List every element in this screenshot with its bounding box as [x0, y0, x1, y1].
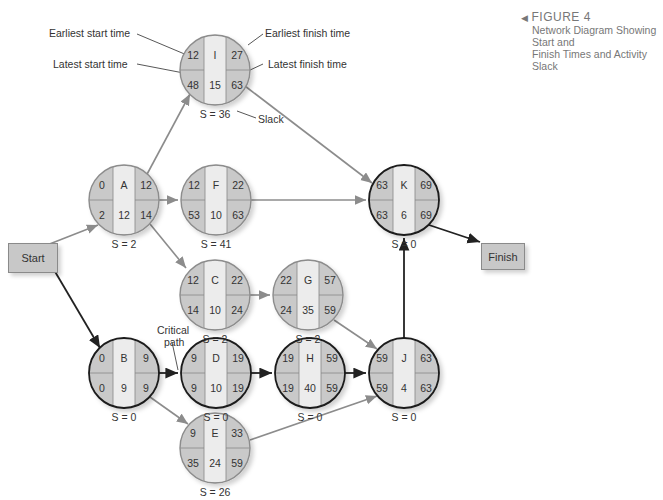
label-slack: Slack	[258, 113, 284, 125]
node-d-earliest-finish: 19	[232, 352, 244, 364]
edge-start-a	[47, 225, 98, 245]
node-f-slack: S = 41	[201, 238, 232, 250]
node-d	[181, 338, 251, 408]
node-j-latest-finish: 63	[420, 382, 432, 394]
node-i-latest-finish: 63	[231, 79, 243, 91]
node-i-latest-start: 48	[187, 79, 199, 91]
node-j-earliest-finish: 63	[420, 352, 432, 364]
node-c	[180, 260, 250, 330]
node-b-earliest-finish: 9	[143, 352, 149, 364]
label-path: path	[164, 336, 184, 348]
node-c-duration: 10	[209, 304, 221, 316]
leader-slack	[237, 111, 256, 118]
node-f-activity-name: F	[213, 179, 219, 191]
node-c-earliest-start: 12	[187, 274, 199, 286]
node-j-slack: S = 0	[392, 411, 417, 423]
node-k	[369, 165, 439, 235]
node-d-latest-finish: 19	[232, 382, 244, 394]
node-h-latest-start: 19	[282, 382, 294, 394]
node-e-earliest-start: 9	[190, 427, 196, 439]
node-c-earliest-finish: 22	[231, 274, 243, 286]
node-d-slack: S = 0	[204, 411, 229, 423]
node-b-latest-finish: 9	[143, 382, 149, 394]
node-c-latest-start: 14	[187, 304, 199, 316]
activity-nodes	[89, 35, 439, 483]
edge-b-e	[150, 397, 188, 424]
node-b-slack: S = 0	[112, 411, 137, 423]
node-h-earliest-start: 19	[282, 352, 294, 364]
node-b-activity-name: B	[120, 352, 127, 364]
node-i-slack: S = 36	[200, 108, 231, 120]
node-a	[89, 165, 159, 235]
node-k-duration: 6	[401, 209, 407, 221]
network-diagram-canvas	[0, 0, 663, 500]
figure-caption: ◀FIGURE 4 Network Diagram Showing Start …	[521, 10, 663, 72]
node-j-earliest-start: 59	[376, 352, 388, 364]
node-c-slack: S = 2	[203, 333, 228, 345]
node-f-earliest-start: 12	[188, 179, 200, 191]
edge-a-i	[145, 94, 190, 178]
node-e	[180, 413, 250, 483]
node-f-duration: 10	[210, 209, 222, 221]
leader-earliest-finish	[248, 34, 263, 45]
node-g-earliest-finish: 57	[324, 274, 336, 286]
node-e-duration: 24	[209, 457, 221, 469]
node-g	[273, 260, 343, 330]
label-latest-start: Latest start time	[53, 58, 128, 70]
label-earliest-finish: Earliest finish time	[265, 27, 350, 39]
edge-a-c	[150, 224, 186, 268]
node-i-duration: 15	[209, 79, 221, 91]
node-f-latest-start: 53	[188, 209, 200, 221]
node-e-activity-name: E	[211, 427, 218, 439]
start-node: Start	[8, 243, 58, 273]
node-a-earliest-start: 0	[99, 179, 105, 191]
node-d-activity-name: D	[212, 352, 220, 364]
node-e-earliest-finish: 33	[231, 427, 243, 439]
node-e-slack: S = 26	[200, 486, 231, 498]
node-h-activity-name: H	[306, 352, 314, 364]
node-b-duration: 9	[121, 382, 127, 394]
node-k-earliest-start: 63	[376, 179, 388, 191]
node-j	[369, 338, 439, 408]
node-g-slack: S = 2	[296, 333, 321, 345]
label-earliest-start: Earliest start time	[49, 27, 130, 39]
node-g-latest-start: 24	[280, 304, 292, 316]
node-b-latest-start: 0	[99, 382, 105, 394]
node-a-earliest-finish: 12	[140, 179, 152, 191]
node-i-earliest-start: 12	[187, 49, 199, 61]
node-b	[89, 338, 159, 408]
node-i-activity-name: I	[214, 49, 217, 61]
node-k-activity-name: K	[400, 179, 407, 191]
node-b-earliest-start: 0	[99, 352, 105, 364]
node-j-latest-start: 59	[376, 382, 388, 394]
node-j-duration: 4	[401, 382, 407, 394]
edge-k-finish	[429, 225, 480, 242]
node-e-latest-finish: 59	[231, 457, 243, 469]
figure-title: FIGURE 4	[532, 10, 591, 24]
node-d-duration: 10	[210, 382, 222, 394]
edge-i-k	[245, 86, 372, 183]
node-c-activity-name: C	[211, 274, 219, 286]
node-k-latest-finish: 69	[420, 209, 432, 221]
figure-subtitle-line1: Network Diagram Showing Start and	[532, 24, 663, 48]
node-g-duration: 35	[302, 304, 314, 316]
figure-subtitle-line2: Finish Times and Activity Slack	[532, 48, 663, 72]
node-a-slack: S = 2	[112, 238, 137, 250]
node-k-latest-start: 63	[376, 209, 388, 221]
pointer-triangle-icon: ◀	[521, 13, 529, 23]
node-f-latest-finish: 63	[232, 209, 244, 221]
node-h-duration: 40	[304, 382, 316, 394]
node-a-duration: 12	[118, 209, 130, 221]
node-k-slack: S = 0	[392, 238, 417, 250]
node-j-activity-name: J	[401, 352, 406, 364]
node-h	[275, 338, 345, 408]
node-d-latest-start: 9	[191, 382, 197, 394]
edge-g-j	[334, 320, 377, 349]
label-critical: Critical	[157, 324, 189, 336]
node-i-earliest-finish: 27	[231, 49, 243, 61]
label-latest-finish: Latest finish time	[268, 58, 347, 70]
node-f	[181, 165, 251, 235]
node-d-earliest-start: 9	[191, 352, 197, 364]
node-g-activity-name: G	[304, 274, 312, 286]
finish-node: Finish	[481, 243, 525, 270]
